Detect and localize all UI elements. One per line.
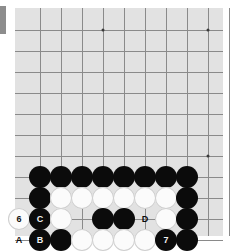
stone-black[interactable] (113, 208, 135, 230)
stone-label: 7 (163, 236, 168, 245)
star-point (207, 29, 210, 32)
stone-white[interactable] (155, 208, 177, 230)
grid-line-horizontal (15, 72, 223, 73)
stone-black-labeled-B[interactable]: B (29, 229, 51, 251)
stone-label: 6 (16, 215, 21, 224)
stone-label: B (37, 236, 44, 245)
stone-black[interactable] (176, 187, 198, 209)
page-edge-marker (0, 6, 6, 34)
star-point (207, 155, 210, 158)
stone-black[interactable] (176, 208, 198, 230)
grid-line-horizontal (15, 93, 223, 94)
stone-black[interactable] (134, 166, 156, 188)
stone-black[interactable] (29, 166, 51, 188)
go-board[interactable]: 6CB7 AD (15, 8, 223, 236)
stone-black[interactable] (29, 187, 51, 209)
stone-white[interactable] (92, 187, 114, 209)
stone-white[interactable] (50, 208, 72, 230)
star-point (102, 29, 105, 32)
stone-black-labeled-C[interactable]: C (29, 208, 51, 230)
stone-white[interactable] (71, 229, 93, 251)
stone-white[interactable] (71, 187, 93, 209)
grid-line-vertical (229, 8, 230, 236)
grid-line-horizontal (15, 51, 223, 52)
stone-white[interactable] (113, 229, 135, 251)
stone-black[interactable] (92, 208, 114, 230)
board-point-label-A[interactable]: A (16, 236, 23, 245)
stone-white[interactable] (50, 187, 72, 209)
stone-black[interactable] (155, 166, 177, 188)
stone-black[interactable] (176, 229, 198, 251)
grid-line-horizontal (15, 156, 223, 157)
stone-white[interactable] (155, 187, 177, 209)
stone-black[interactable] (92, 166, 114, 188)
stone-black[interactable] (50, 166, 72, 188)
stone-white[interactable] (92, 229, 114, 251)
stone-white[interactable] (113, 187, 135, 209)
stone-black[interactable] (176, 166, 198, 188)
grid-line-horizontal (15, 114, 223, 115)
stone-white[interactable] (134, 187, 156, 209)
stone-black[interactable] (113, 166, 135, 188)
stone-black[interactable] (71, 166, 93, 188)
stone-black-labeled-7[interactable]: 7 (155, 229, 177, 251)
stone-black[interactable] (50, 229, 72, 251)
stone-white[interactable] (134, 229, 156, 251)
stone-white-labeled-6[interactable]: 6 (8, 208, 30, 230)
grid-line-horizontal (15, 30, 223, 31)
grid-line-vertical (208, 8, 209, 236)
board-point-label-D[interactable]: D (142, 215, 149, 224)
grid-line-horizontal (15, 135, 223, 136)
stone-label: C (37, 215, 44, 224)
